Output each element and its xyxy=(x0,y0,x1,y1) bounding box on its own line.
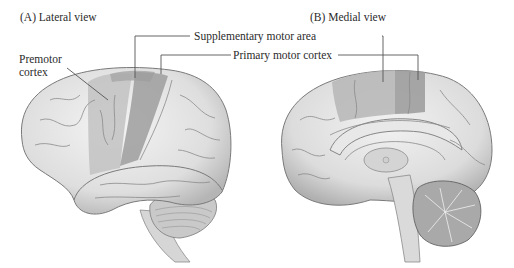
medial-brain xyxy=(282,70,492,262)
premotor-label-line1: Premotor xyxy=(19,53,62,66)
panel-b-title: (B) Medial view xyxy=(310,11,386,24)
cerebellum-medial xyxy=(413,181,481,246)
primary-motor-cortex-label: Primary motor cortex xyxy=(233,49,332,62)
panel-a-title: (A) Lateral view xyxy=(20,11,97,24)
lateral-brain xyxy=(21,68,231,262)
premotor-label-line2: cortex xyxy=(19,66,48,79)
supplementary-motor-area-label: Supplementary motor area xyxy=(194,30,316,43)
motor-cortex-figure: (A) Lateral view (B) Medial view Premoto… xyxy=(0,0,514,268)
